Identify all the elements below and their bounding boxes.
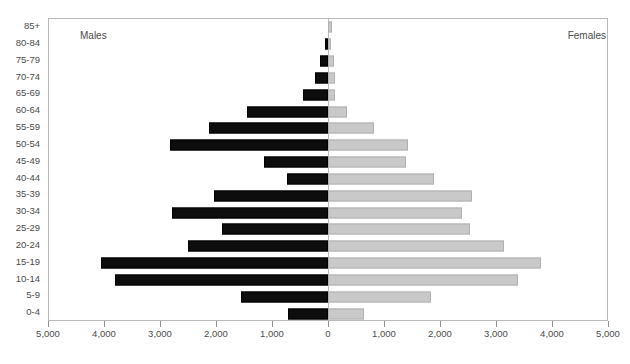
bar-male	[209, 123, 328, 134]
x-axis-tick-label: 5,000	[36, 328, 60, 339]
y-axis-label: 10-14	[16, 271, 40, 288]
population-pyramid-chart: 85+80-8475-7970-7465-6960-6455-5950-5445…	[0, 0, 630, 364]
bar-female	[328, 39, 331, 50]
bar-female	[328, 89, 335, 100]
y-axis-label: 60-64	[16, 102, 40, 119]
bar-male	[241, 291, 328, 302]
pyramid-row	[49, 120, 607, 137]
y-axis-label: 15-19	[16, 254, 40, 271]
pyramid-row	[49, 19, 607, 36]
y-axis-label: 55-59	[16, 119, 40, 136]
y-axis-label: 70-74	[16, 69, 40, 86]
pyramid-row	[49, 137, 607, 154]
y-axis-label: 85+	[24, 18, 40, 35]
pyramid-row	[49, 255, 607, 272]
bar-female	[328, 72, 335, 83]
bar-male	[247, 106, 328, 117]
bar-male	[264, 157, 328, 168]
pyramid-row	[49, 305, 607, 322]
x-axis-labels: 5,0004,0003,0002,0001,00001,0002,0003,00…	[0, 328, 630, 346]
x-axis-tick-label: 3,000	[148, 328, 172, 339]
x-axis-tick	[496, 321, 497, 327]
bar-female	[328, 56, 334, 67]
pyramid-row	[49, 86, 607, 103]
y-axis-label: 35-39	[16, 186, 40, 203]
x-axis-tick	[272, 321, 273, 327]
bar-male	[101, 258, 328, 269]
pyramid-row	[49, 154, 607, 171]
bar-female	[328, 224, 470, 235]
bar-female	[328, 308, 364, 319]
bar-male	[315, 72, 328, 83]
legend-label-males: Males	[80, 30, 107, 41]
x-axis-tick-label: 4,000	[540, 328, 564, 339]
pyramid-row	[49, 171, 607, 188]
bar-male	[288, 308, 328, 319]
y-axis-label: 30-34	[16, 203, 40, 220]
bar-female	[328, 157, 406, 168]
bar-male	[320, 56, 328, 67]
bar-female	[328, 22, 332, 33]
x-axis-tick-label: 0	[325, 328, 330, 339]
x-axis-tick-label: 2,000	[204, 328, 228, 339]
x-axis-tick-label: 2,000	[428, 328, 452, 339]
x-axis-tick	[440, 321, 441, 327]
pyramid-row	[49, 238, 607, 255]
x-axis-tick	[552, 321, 553, 327]
pyramid-row	[49, 36, 607, 53]
x-axis-tick	[160, 321, 161, 327]
plot-area	[48, 18, 608, 321]
x-axis-tick	[216, 321, 217, 327]
bar-male	[115, 274, 328, 285]
x-axis-tick-label: 5,000	[596, 328, 620, 339]
y-axis-label: 20-24	[16, 237, 40, 254]
bar-male	[303, 89, 328, 100]
bar-female	[328, 106, 347, 117]
pyramid-row	[49, 187, 607, 204]
x-axis-tick-label: 4,000	[92, 328, 116, 339]
x-axis-tick	[384, 321, 385, 327]
bar-female	[328, 291, 431, 302]
legend-label-females: Females	[568, 30, 606, 41]
y-axis-label: 65-69	[16, 85, 40, 102]
y-axis-age-group-labels: 85+80-8475-7970-7465-6960-6455-5950-5445…	[0, 18, 44, 321]
pyramid-row	[49, 204, 607, 221]
bar-female	[328, 258, 541, 269]
bar-female	[328, 190, 472, 201]
bar-female	[328, 207, 462, 218]
pyramid-row	[49, 272, 607, 289]
pyramid-row	[49, 221, 607, 238]
x-axis-tick	[328, 321, 329, 327]
x-axis-tick	[48, 321, 49, 327]
x-axis-tick-label: 1,000	[260, 328, 284, 339]
pyramid-row	[49, 288, 607, 305]
x-axis-tick	[608, 321, 609, 327]
bar-male	[170, 140, 328, 151]
y-axis-label: 80-84	[16, 35, 40, 52]
y-axis-label: 45-49	[16, 153, 40, 170]
pyramid-row	[49, 70, 607, 87]
bar-male	[172, 207, 328, 218]
pyramid-row	[49, 103, 607, 120]
bar-male	[222, 224, 328, 235]
bar-female	[328, 140, 408, 151]
x-axis-ticks	[48, 321, 608, 327]
bar-female	[328, 173, 434, 184]
pyramid-row	[49, 53, 607, 70]
y-axis-label: 50-54	[16, 136, 40, 153]
x-axis-tick-label: 3,000	[484, 328, 508, 339]
y-axis-label: 25-29	[16, 220, 40, 237]
y-axis-label: 5-9	[26, 287, 40, 304]
bar-female	[328, 123, 374, 134]
y-axis-label: 75-79	[16, 52, 40, 69]
y-axis-label: 40-44	[16, 170, 40, 187]
x-axis-tick	[104, 321, 105, 327]
y-axis-label: 0-4	[26, 304, 40, 321]
bar-male	[214, 190, 328, 201]
bar-female	[328, 241, 504, 252]
bar-female	[328, 274, 518, 285]
x-axis-tick-label: 1,000	[372, 328, 396, 339]
bar-male	[287, 173, 328, 184]
bar-male	[188, 241, 328, 252]
